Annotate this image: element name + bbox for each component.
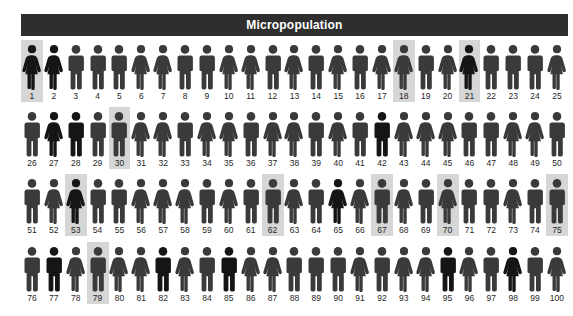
person-cell[interactable]: 17 [371, 40, 393, 102]
person-cell[interactable]: 41 [349, 107, 371, 169]
person-cell[interactable]: 93 [393, 242, 415, 304]
person-cell[interactable]: 3 [65, 40, 87, 102]
person-cell[interactable]: 13 [284, 40, 306, 102]
person-cell-highlighted[interactable]: 67 [371, 174, 393, 236]
person-cell[interactable]: 7 [152, 40, 174, 102]
person-cell-highlighted[interactable]: 21 [459, 40, 481, 102]
person-cell[interactable]: 42 [371, 107, 393, 169]
person-cell[interactable]: 6 [130, 40, 152, 102]
person-cell[interactable]: 38 [284, 107, 306, 169]
person-cell[interactable]: 15 [327, 40, 349, 102]
person-cell[interactable]: 47 [480, 107, 502, 169]
person-cell-highlighted[interactable]: 53 [65, 174, 87, 236]
person-cell[interactable]: 66 [349, 174, 371, 236]
person-cell[interactable]: 72 [480, 174, 502, 236]
person-cell[interactable]: 51 [21, 174, 43, 236]
person-cell[interactable]: 74 [524, 174, 546, 236]
person-cell[interactable]: 27 [43, 107, 65, 169]
person-cell[interactable]: 92 [371, 242, 393, 304]
person-cell[interactable]: 94 [415, 242, 437, 304]
person-cell[interactable]: 60 [218, 174, 240, 236]
person-cell[interactable]: 14 [305, 40, 327, 102]
person-cell[interactable]: 12 [262, 40, 284, 102]
person-cell[interactable]: 89 [305, 242, 327, 304]
person-cell[interactable]: 98 [502, 242, 524, 304]
person-cell[interactable]: 71 [459, 174, 481, 236]
person-cell[interactable]: 84 [196, 242, 218, 304]
person-cell[interactable]: 19 [415, 40, 437, 102]
person-cell[interactable]: 52 [43, 174, 65, 236]
person-cell[interactable]: 61 [240, 174, 262, 236]
person-cell[interactable]: 76 [21, 242, 43, 304]
person-cell[interactable]: 100 [546, 242, 568, 304]
person-cell[interactable]: 96 [459, 242, 481, 304]
person-cell[interactable]: 59 [196, 174, 218, 236]
person-cell[interactable]: 68 [393, 174, 415, 236]
person-cell[interactable]: 64 [305, 174, 327, 236]
person-cell[interactable]: 25 [546, 40, 568, 102]
person-cell[interactable]: 20 [437, 40, 459, 102]
person-cell[interactable]: 55 [109, 174, 131, 236]
person-cell-highlighted[interactable]: 30 [109, 107, 131, 169]
person-cell[interactable]: 4 [87, 40, 109, 102]
person-cell[interactable]: 65 [327, 174, 349, 236]
person-cell[interactable]: 80 [109, 242, 131, 304]
person-cell[interactable]: 5 [109, 40, 131, 102]
person-cell[interactable]: 69 [415, 174, 437, 236]
person-cell[interactable]: 99 [524, 242, 546, 304]
person-cell[interactable]: 81 [130, 242, 152, 304]
person-cell[interactable]: 63 [284, 174, 306, 236]
person-cell[interactable]: 90 [327, 242, 349, 304]
person-cell[interactable]: 35 [218, 107, 240, 169]
person-cell[interactable]: 26 [21, 107, 43, 169]
person-cell[interactable]: 33 [174, 107, 196, 169]
person-cell[interactable]: 28 [65, 107, 87, 169]
person-cell[interactable]: 83 [174, 242, 196, 304]
person-cell[interactable]: 58 [174, 174, 196, 236]
person-cell[interactable]: 39 [305, 107, 327, 169]
person-cell[interactable]: 22 [480, 40, 502, 102]
person-cell-highlighted[interactable]: 70 [437, 174, 459, 236]
person-cell[interactable]: 46 [459, 107, 481, 169]
person-cell[interactable]: 95 [437, 242, 459, 304]
person-cell-highlighted[interactable]: 1 [21, 40, 43, 102]
person-cell[interactable]: 87 [262, 242, 284, 304]
person-cell[interactable]: 8 [174, 40, 196, 102]
person-cell[interactable]: 85 [218, 242, 240, 304]
person-cell[interactable]: 86 [240, 242, 262, 304]
person-cell-highlighted[interactable]: 75 [546, 174, 568, 236]
person-cell[interactable]: 54 [87, 174, 109, 236]
person-cell[interactable]: 10 [218, 40, 240, 102]
person-cell[interactable]: 40 [327, 107, 349, 169]
person-cell[interactable]: 88 [284, 242, 306, 304]
person-cell[interactable]: 77 [43, 242, 65, 304]
person-cell[interactable]: 45 [437, 107, 459, 169]
person-cell[interactable]: 49 [524, 107, 546, 169]
person-cell[interactable]: 44 [415, 107, 437, 169]
person-cell[interactable]: 9 [196, 40, 218, 102]
person-cell[interactable]: 48 [502, 107, 524, 169]
person-cell-highlighted[interactable]: 79 [87, 242, 109, 304]
person-cell[interactable]: 16 [349, 40, 371, 102]
person-cell-highlighted[interactable]: 18 [393, 40, 415, 102]
person-cell[interactable]: 29 [87, 107, 109, 169]
person-cell[interactable]: 91 [349, 242, 371, 304]
person-cell[interactable]: 34 [196, 107, 218, 169]
person-cell-highlighted[interactable]: 62 [262, 174, 284, 236]
person-cell[interactable]: 24 [524, 40, 546, 102]
person-cell[interactable]: 50 [546, 107, 568, 169]
person-cell[interactable]: 43 [393, 107, 415, 169]
person-cell[interactable]: 23 [502, 40, 524, 102]
person-cell[interactable]: 56 [130, 174, 152, 236]
person-cell[interactable]: 57 [152, 174, 174, 236]
person-cell[interactable]: 31 [130, 107, 152, 169]
person-cell[interactable]: 73 [502, 174, 524, 236]
person-cell[interactable]: 97 [480, 242, 502, 304]
person-cell[interactable]: 2 [43, 40, 65, 102]
person-cell[interactable]: 11 [240, 40, 262, 102]
person-cell[interactable]: 36 [240, 107, 262, 169]
person-cell[interactable]: 82 [152, 242, 174, 304]
person-cell[interactable]: 78 [65, 242, 87, 304]
person-cell[interactable]: 32 [152, 107, 174, 169]
person-cell[interactable]: 37 [262, 107, 284, 169]
